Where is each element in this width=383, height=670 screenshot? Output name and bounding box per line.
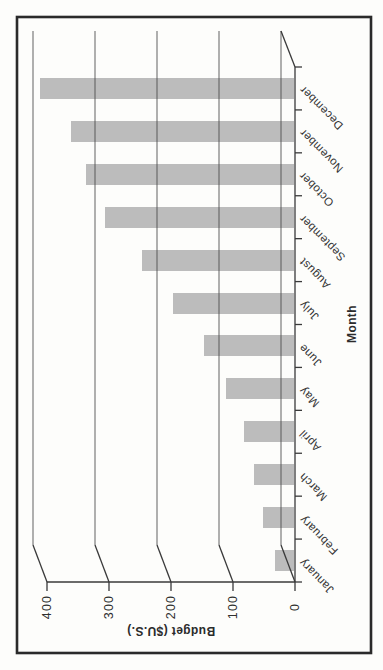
value-label-200: 200 [165,595,178,619]
value-label-0: 0 [289,603,302,611]
value-axis-title: Budget ($U.S.) [127,624,215,637]
category-axis-title: Month [346,305,359,343]
value-labels-layer: 0100200300400 [0,0,383,670]
value-label-300: 300 [103,595,116,619]
scanned-chart-figure: DecemberNovemberOctoberSeptemberAugustJu… [0,0,383,670]
value-label-100: 100 [227,595,240,619]
value-label-400: 400 [41,595,54,619]
